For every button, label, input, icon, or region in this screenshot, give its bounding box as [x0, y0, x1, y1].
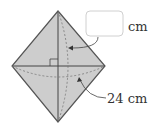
answer-box[interactable] — [86, 11, 123, 36]
rhombus-diagram: cm 24 cm — [0, 0, 160, 128]
diagonal-length-label: 24 cm — [107, 91, 147, 106]
answer-unit: cm — [128, 19, 148, 34]
